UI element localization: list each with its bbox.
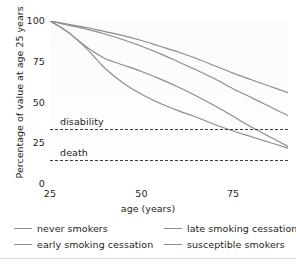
x-axis-title: age (years)	[0, 203, 296, 214]
chart-figure: disability death 100 75 50 25 0 Percenta…	[0, 0, 296, 265]
legend-label: late smoking cessation	[187, 223, 296, 234]
chart-legend: never smokers late smoking cessation ear…	[14, 220, 286, 252]
series-line-never-smokers	[50, 21, 288, 93]
reference-line-death	[50, 160, 288, 161]
legend-line-icon	[14, 228, 32, 229]
plot-area	[50, 21, 288, 184]
reference-line-disability	[50, 129, 288, 130]
legend-label: early smoking cessation	[37, 239, 153, 250]
reference-label-death: death	[60, 147, 88, 158]
footer-divider	[0, 258, 296, 259]
legend-line-icon	[164, 228, 182, 229]
legend-label: never smokers	[37, 223, 108, 234]
legend-line-icon	[14, 244, 32, 245]
x-tick-label-50: 50	[129, 188, 155, 199]
legend-item-early-smoking-cessation: early smoking cessation	[14, 239, 164, 250]
series-line-late-smoking-cessation	[50, 21, 288, 116]
legend-item-susceptible-smokers: susceptible smokers	[164, 239, 296, 250]
x-tick-label-75: 75	[220, 188, 246, 199]
legend-label: susceptible smokers	[187, 239, 285, 250]
reference-label-disability: disability	[60, 116, 104, 127]
x-tick-label-25: 25	[37, 188, 63, 199]
legend-item-late-smoking-cessation: late smoking cessation	[164, 223, 296, 234]
legend-line-icon	[164, 244, 182, 245]
y-axis-title: Percentage of value at age 25 years	[14, 9, 25, 179]
legend-item-never-smokers: never smokers	[14, 223, 164, 234]
